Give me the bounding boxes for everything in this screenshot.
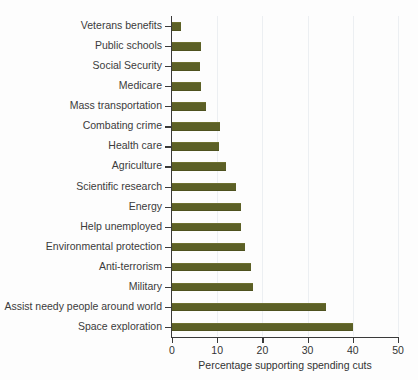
bar	[172, 243, 245, 252]
bar-row	[172, 116, 398, 137]
bar	[172, 22, 181, 31]
bar	[172, 122, 220, 131]
bar	[172, 42, 201, 51]
value-tick	[217, 338, 218, 343]
bar-row	[172, 237, 398, 258]
bar-row	[172, 197, 398, 218]
value-tick-label: 50	[392, 344, 404, 356]
bar	[172, 263, 251, 272]
category-label: Health care	[108, 140, 162, 151]
category-label: Veterans benefits	[81, 20, 162, 31]
bar	[172, 203, 241, 212]
category-label: Public schools	[95, 40, 162, 51]
bar	[172, 183, 236, 192]
value-tick	[172, 338, 173, 343]
bar-row	[172, 257, 398, 278]
value-tick	[262, 338, 263, 343]
category-label: Energy	[129, 201, 162, 212]
value-axis-ticks	[0, 338, 418, 343]
category-label: Space exploration	[78, 321, 162, 332]
category-label: Social Security	[93, 60, 162, 71]
bar-row	[172, 96, 398, 117]
gridline	[398, 16, 399, 336]
value-tick	[308, 338, 309, 343]
bar-row	[172, 156, 398, 177]
bar-row	[172, 76, 398, 97]
value-tick-label: 10	[211, 344, 223, 356]
bar-row	[172, 277, 398, 298]
category-label: Environmental protection	[46, 241, 162, 252]
value-tick-label: 0	[169, 344, 175, 356]
category-label: Help unemployed	[80, 221, 162, 232]
bar-row	[172, 36, 398, 57]
bar-row	[172, 56, 398, 77]
category-axis-labels: Veterans benefitsPublic schoolsSocial Se…	[0, 16, 162, 337]
category-label: Agriculture	[112, 160, 162, 171]
category-label: Military	[129, 281, 162, 292]
bar	[172, 82, 201, 91]
bar	[172, 323, 353, 332]
bar	[172, 142, 219, 151]
bar-row	[172, 217, 398, 238]
bar	[172, 162, 226, 171]
value-tick-label: 20	[257, 344, 269, 356]
category-axis-line	[171, 16, 172, 337]
bar-row	[172, 136, 398, 157]
bar	[172, 223, 241, 232]
category-label: Assist needy people around world	[4, 301, 162, 312]
value-tick	[398, 338, 399, 343]
bar-row	[172, 16, 398, 37]
value-tick-label: 30	[302, 344, 314, 356]
value-tick-label: 40	[347, 344, 359, 356]
bar-row	[172, 297, 398, 318]
category-label: Anti-terrorism	[99, 261, 162, 272]
bar	[172, 303, 326, 312]
x-axis-title: Percentage supporting spending cuts	[172, 359, 398, 371]
bar	[172, 102, 206, 111]
plot-area	[172, 16, 398, 336]
category-label: Combating crime	[83, 120, 162, 131]
bar	[172, 62, 200, 71]
value-tick	[353, 338, 354, 343]
bar-chart: Veterans benefitsPublic schoolsSocial Se…	[0, 0, 418, 380]
bar-row	[172, 317, 398, 338]
category-label: Scientific research	[76, 181, 162, 192]
bar	[172, 283, 253, 292]
category-label: Medicare	[119, 80, 162, 91]
category-label: Mass transportation	[70, 100, 162, 111]
bar-row	[172, 177, 398, 198]
